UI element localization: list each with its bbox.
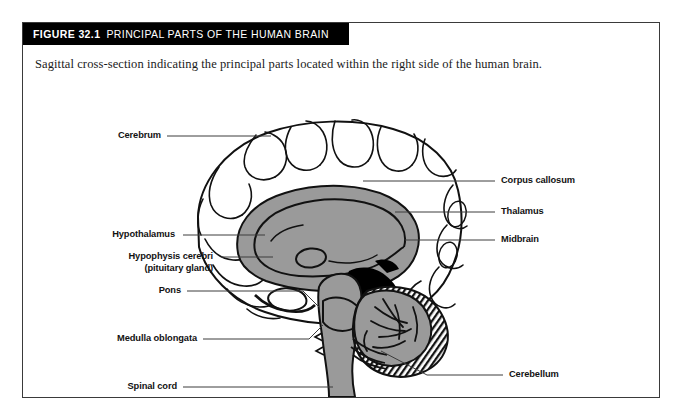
label-thalamus: Thalamus [501, 206, 544, 218]
label-midbrain: Midbrain [501, 234, 539, 246]
label-hypothalamus: Hypothalamus [33, 229, 175, 241]
label-cerebrum: Cerebrum [41, 130, 161, 142]
label-corpus-callosum: Corpus callosum [501, 175, 575, 187]
label-hypophysis-cerebri: Hypophysis cerebri (pituitary gland) [33, 251, 213, 274]
figure-frame: FIGURE 32.1 PRINCIPAL PARTS OF THE HUMAN… [22, 22, 660, 398]
figure-number: FIGURE 32.1 [33, 28, 100, 40]
brain-diagram: Cerebrum Hypothalamus Hypophysis cerebri… [23, 75, 659, 397]
label-cerebellum: Cerebellum [509, 369, 559, 381]
figure-header-bar: FIGURE 32.1 PRINCIPAL PARTS OF THE HUMAN… [23, 23, 349, 45]
label-medulla-oblongata: Medulla oblongata [33, 333, 197, 345]
corpus-callosum-thalamus-gray [237, 186, 419, 291]
figure-title: PRINCIPAL PARTS OF THE HUMAN BRAIN [106, 28, 328, 40]
label-pons: Pons [33, 285, 181, 297]
label-spinal-cord: Spinal cord [33, 381, 177, 393]
figure-caption: Sagittal cross-section indicating the pr… [35, 57, 647, 72]
